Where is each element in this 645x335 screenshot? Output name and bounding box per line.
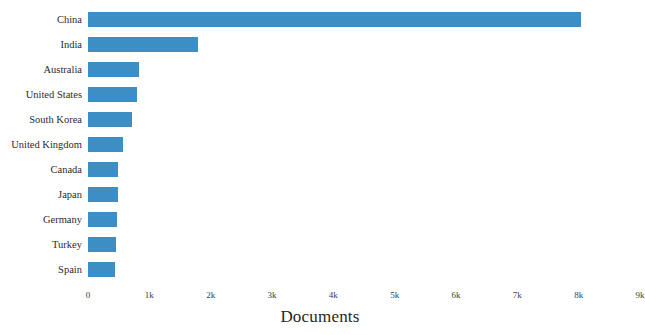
x-tick-label: 9k	[636, 290, 645, 300]
bar	[88, 112, 132, 127]
x-axis: 01k2k3k4k5k6k7k8k9k	[88, 288, 640, 308]
bar	[88, 12, 581, 27]
bar-row: United Kingdom	[88, 132, 640, 157]
bar-row: Japan	[88, 182, 640, 207]
x-tick-label: 7k	[513, 290, 522, 300]
bar	[88, 137, 123, 152]
bar-category-label: Spain	[58, 257, 82, 282]
bar-category-label: Turkey	[52, 232, 82, 257]
bar-row: South Korea	[88, 107, 640, 132]
x-tick-label: 8k	[574, 290, 583, 300]
bar-category-label: India	[60, 32, 82, 57]
bar-category-label: United States	[26, 82, 82, 107]
bar-row: India	[88, 32, 640, 57]
bar-category-label: Germany	[43, 207, 82, 232]
bar-row: United States	[88, 82, 640, 107]
bar	[88, 237, 116, 252]
bar-category-label: United Kingdom	[11, 132, 82, 157]
bar	[88, 187, 118, 202]
x-tick-label: 1k	[145, 290, 154, 300]
bar	[88, 162, 118, 177]
bar-category-label: China	[57, 7, 82, 32]
bar	[88, 37, 198, 52]
x-tick-label: 5k	[390, 290, 399, 300]
x-tick-label: 0	[86, 290, 91, 300]
bar-category-label: Australia	[44, 57, 83, 82]
x-tick-label: 4k	[329, 290, 338, 300]
x-tick-label: 3k	[268, 290, 277, 300]
bar-category-label: South Korea	[29, 107, 82, 132]
bar	[88, 87, 137, 102]
bar-row: China	[88, 7, 640, 32]
x-tick-label: 2k	[206, 290, 215, 300]
bar	[88, 62, 139, 77]
bar-row: Australia	[88, 57, 640, 82]
x-tick-label: 6k	[452, 290, 461, 300]
bar-category-label: Canada	[51, 157, 83, 182]
bar-category-label: Japan	[58, 182, 82, 207]
bar	[88, 262, 115, 277]
bar-row: Germany	[88, 207, 640, 232]
bar-row: Spain	[88, 257, 640, 282]
plot-area: ChinaIndiaAustraliaUnited StatesSouth Ko…	[88, 0, 640, 288]
bar-row: Turkey	[88, 232, 640, 257]
x-axis-title: Documents	[0, 307, 640, 327]
bar-row: Canada	[88, 157, 640, 182]
bar	[88, 212, 117, 227]
